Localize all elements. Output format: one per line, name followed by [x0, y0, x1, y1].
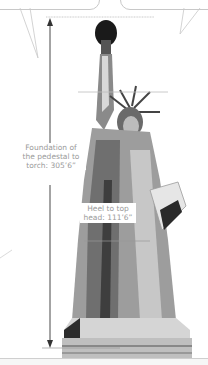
heel-label-line2: head: 111’6”	[80, 213, 136, 222]
bottom-border	[0, 358, 208, 365]
foundation-label-line2: the pedestal to	[16, 152, 86, 161]
statue-measurement-figure: Foundation of the pedestal to torch: 305…	[0, 0, 208, 365]
heel-label-line1: Heel to top	[80, 204, 136, 213]
foundation-to-torch-label: Foundation of the pedestal to torch: 305…	[16, 143, 86, 170]
foundation-label-line3: torch: 305’6”	[16, 161, 86, 170]
foundation-label-line1: Foundation of	[16, 143, 86, 152]
statue-of-liberty-illustration	[0, 0, 208, 365]
heel-to-head-label: Heel to top head: 111’6”	[80, 203, 136, 223]
